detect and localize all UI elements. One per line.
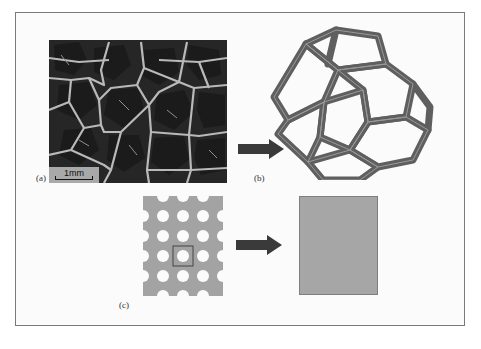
- homogenized-block: [299, 196, 378, 295]
- foam-cells-graphic: [49, 40, 227, 183]
- panel-label-a: (a): [36, 173, 46, 183]
- kelvin-cell-model: [268, 22, 436, 180]
- sem-foam-image: 1mm: [49, 40, 227, 183]
- panel-label-b: (b): [254, 173, 265, 183]
- arrow-right-icon: [236, 235, 282, 255]
- panel-label-c: (c): [119, 300, 129, 310]
- scale-bar: 1mm: [49, 167, 99, 183]
- scale-bar-line: [55, 176, 93, 180]
- perforated-plate: [143, 196, 223, 296]
